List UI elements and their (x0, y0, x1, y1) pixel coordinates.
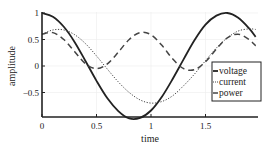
tick-labels: 10.50−0.500.511.5 (23, 8, 212, 131)
y-tick-label: 1 (35, 8, 40, 18)
x-tick-label: 1.5 (200, 121, 212, 131)
x-tick-label: 0 (40, 121, 45, 131)
y-axis-label: amplitude (6, 45, 17, 86)
y-tick-label: 0 (35, 61, 40, 71)
x-tick-label: 1 (149, 121, 154, 131)
legend-label-power: power (219, 88, 244, 98)
y-tick-label: −0.5 (23, 88, 40, 98)
legend-label-voltage: voltage (219, 66, 247, 76)
x-tick-label: 0.5 (91, 121, 103, 131)
line-chart: 10.50−0.500.511.5 time amplitude voltage… (0, 0, 274, 152)
x-axis-label: time (141, 133, 159, 144)
legend-label-current: current (219, 77, 246, 87)
legend: voltagecurrentpower (212, 62, 261, 101)
y-tick-label: 0.5 (28, 35, 40, 45)
